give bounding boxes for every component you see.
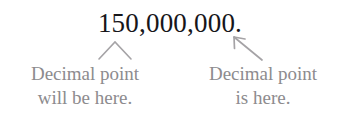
number-value: 150,000,000. xyxy=(0,8,340,38)
caption-right: Decimal point is here. xyxy=(182,62,340,110)
decimal-point-diagram: 150,000,000. Decimal point will be here.… xyxy=(0,0,340,114)
caption-left: Decimal point will be here. xyxy=(4,62,166,110)
caption-left-line-2: will be here. xyxy=(4,86,166,110)
caption-right-line-2: is here. xyxy=(182,86,340,110)
caret-up-icon xyxy=(96,39,134,61)
arrow-up-left-icon xyxy=(228,34,268,62)
caption-left-line-1: Decimal point xyxy=(4,62,166,86)
caption-right-line-1: Decimal point xyxy=(182,62,340,86)
